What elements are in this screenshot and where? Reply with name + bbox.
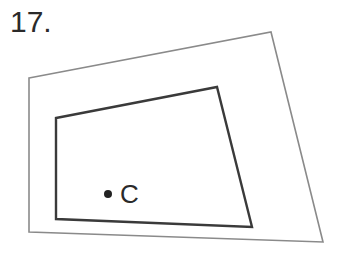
inner-quadrilateral xyxy=(56,87,252,227)
point-c-dot xyxy=(104,190,112,198)
quadrilateral-diagram xyxy=(0,0,341,253)
point-label: C xyxy=(120,181,139,207)
outer-quadrilateral xyxy=(29,32,323,242)
